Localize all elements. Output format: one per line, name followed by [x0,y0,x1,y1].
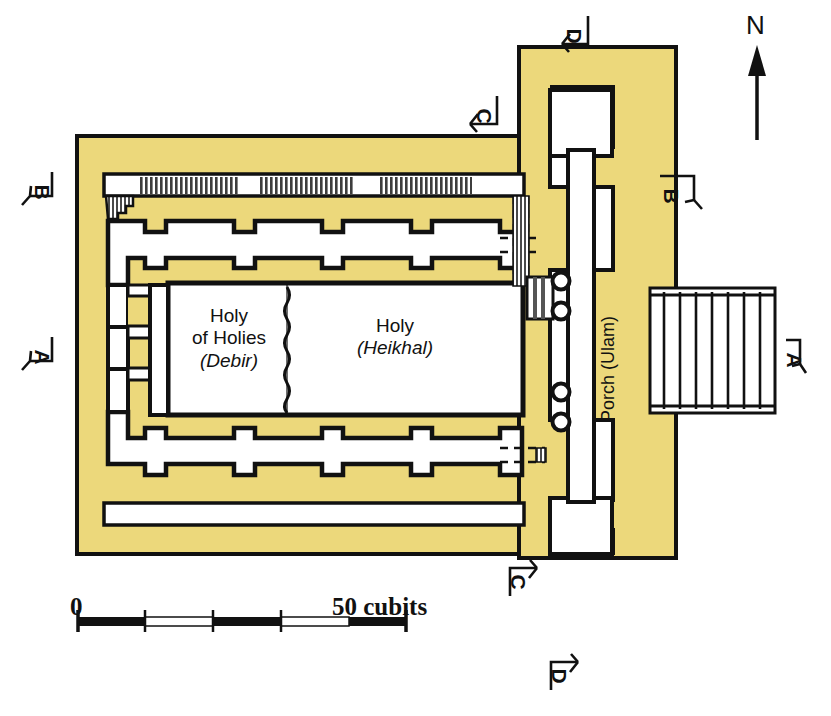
scale-start-label: 0 [70,593,83,621]
marker-b-right: B [655,176,699,220]
marker-a-left: A [30,337,74,381]
marker-c-bottom: C [500,556,544,600]
marker-a-right: A [782,340,826,384]
temple-floor-plan: Holy of Holies (Debir) Holy (Heikhal) Po… [0,0,831,716]
holy-of-holies-line2: of Holies [170,327,288,349]
marker-d-bottom-letter: D [547,668,571,683]
holy-of-holies-line1: Holy [170,305,288,327]
marker-d-bottom: D [541,650,585,694]
marker-b-left-letter: B [30,184,54,199]
marker-a-left-letter: A [30,349,54,364]
north-label: N [746,10,765,41]
room-label-holy-place: Holy (Heikhal) [300,315,490,360]
marker-b-right-letter: B [659,188,683,203]
east-stairway [650,288,775,413]
marker-b-left: B [30,172,74,216]
holy-of-holies-line3: (Debir) [170,350,288,372]
holy-place-line1: Holy [300,315,490,337]
north-arrow-icon [748,45,766,140]
south-corridor [104,503,524,525]
marker-a-right-letter: A [782,352,806,367]
holy-place-line2: (Heikhal) [300,337,490,359]
porch-label: Porch (Ulam) [598,316,619,422]
scale-end-label: 50 cubits [332,593,427,621]
marker-c-top-letter: C [472,108,496,123]
marker-c-top: C [470,96,514,140]
marker-d-top-letter: D [562,28,586,43]
marker-d-top: D [560,16,604,60]
room-label-holy-of-holies: Holy of Holies (Debir) [170,305,288,372]
marker-c-bottom-letter: C [506,574,530,589]
